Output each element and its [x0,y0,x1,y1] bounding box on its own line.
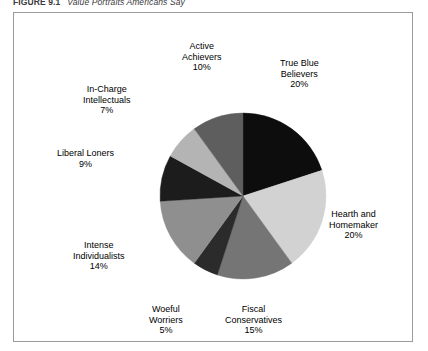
pie-slice-value: 9% [57,159,114,170]
pie-slice-label: Liberal Loners9% [57,148,114,169]
figure-caption: FIGURE 9.1Value Portraits Americans Say [13,0,185,7]
pie-slice-label-line2: Intellectuals [83,95,131,106]
pie-slice-label: Hearth andHomemaker20% [329,209,378,241]
pie-slice-label-line1: Intense [73,240,125,251]
pie-slice-label-line1: Fiscal [225,304,282,315]
chart-frame: True BlueBelievers20%Hearth andHomemaker… [13,12,413,342]
pie-slice-label-line1: Active [182,41,222,52]
pie-slice-label-line2: Conservatives [225,315,282,326]
pie-slice-value: 15% [225,325,282,336]
pie-slice-label: WoefulWorriers5% [149,304,183,336]
pie-slice-label: FiscalConservatives15% [225,304,282,336]
pie-slice-label-line1: True Blue [280,58,319,69]
pie-slice-value: 20% [280,79,319,90]
pie-slice-label: In-ChargeIntellectuals7% [83,84,131,116]
pie-slice-value: 14% [73,261,125,272]
figure-title: Value Portraits Americans Say [60,0,185,7]
pie-slice-value: 20% [329,230,378,241]
pie-slice-label: True BlueBelievers20% [280,58,319,90]
pie-slice-label-line1: Hearth and [329,209,378,220]
pie-slice-label-line2: Worriers [149,315,183,326]
pie-slice-label-line2: Achievers [182,52,222,63]
pie-slice-label-line2: Believers [280,69,319,80]
pie-slice-value: 10% [182,62,222,73]
pie-slice-value: 5% [149,325,183,336]
pie-slice-value: 7% [83,105,131,116]
pie-slice-label-line1: Woeful [149,304,183,315]
figure-number: FIGURE 9.1 [13,0,60,7]
pie-slice-label: ActiveAchievers10% [182,41,222,73]
pie-slice-label-line2: Homemaker [329,220,378,231]
pie-slice-label-line2: Individualists [73,251,125,262]
pie-slice-label-line1: Liberal Loners [57,148,114,159]
pie-slice-label-line1: In-Charge [83,84,131,95]
pie-slice-label: IntenseIndividualists14% [73,240,125,272]
